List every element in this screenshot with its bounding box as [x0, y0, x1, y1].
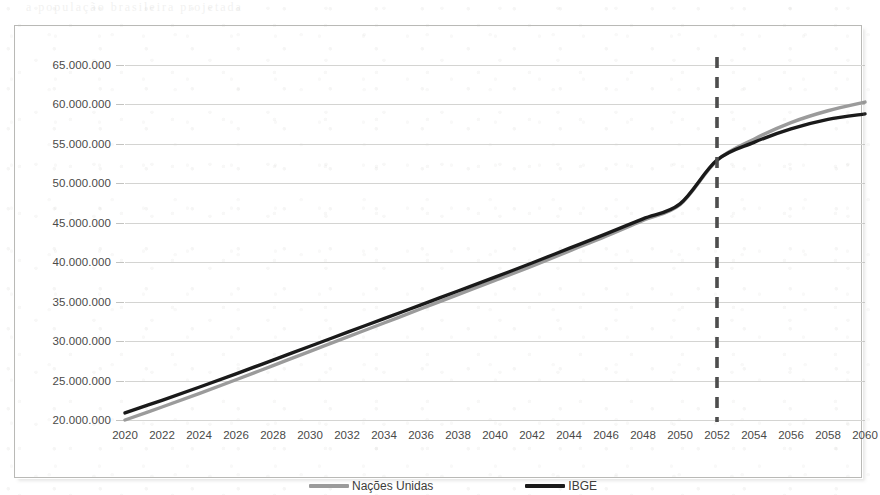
x-axis-label: 2032 — [334, 429, 360, 441]
legend-label: Nações Unidas — [352, 479, 433, 493]
legend-item[interactable]: IBGE — [525, 479, 597, 493]
x-axis-label: 2052 — [704, 429, 730, 441]
legend-swatch-icon — [525, 484, 565, 488]
y-axis-tick — [116, 144, 124, 145]
x-axis-label: 2020 — [112, 429, 138, 441]
x-axis-label: 2038 — [445, 429, 471, 441]
series-layer — [125, 65, 865, 420]
y-axis-tick — [116, 302, 124, 303]
y-axis-tick — [116, 183, 124, 184]
y-axis-label: 25.000.000 — [52, 375, 111, 387]
y-axis-label: 40.000.000 — [52, 256, 111, 268]
legend-label: IBGE — [568, 479, 597, 493]
y-axis-label: 45.000.000 — [52, 217, 111, 229]
y-axis-tick — [116, 420, 124, 421]
x-axis-label: 2026 — [223, 429, 249, 441]
plot-area: 65.000.00060.000.00055.000.00050.000.000… — [125, 65, 865, 420]
y-axis-label: 65.000.000 — [52, 59, 111, 71]
x-axis-label: 2054 — [741, 429, 767, 441]
x-axis-label: 2034 — [371, 429, 397, 441]
gridline — [125, 420, 865, 421]
x-axis-label: 2048 — [630, 429, 656, 441]
series-group — [125, 102, 865, 420]
x-axis-label: 2036 — [408, 429, 434, 441]
x-axis-label: 2022 — [149, 429, 175, 441]
x-axis-label: 2028 — [260, 429, 286, 441]
y-axis-tick — [116, 381, 124, 382]
y-axis-label: 30.000.000 — [52, 335, 111, 347]
chart-frame: 65.000.00060.000.00055.000.00050.000.000… — [14, 25, 862, 478]
x-axis-label: 2060 — [852, 429, 878, 441]
x-axis-label: 2058 — [815, 429, 841, 441]
x-axis-label: 2024 — [186, 429, 212, 441]
y-axis-label: 50.000.000 — [52, 177, 111, 189]
legend-item[interactable]: Nações Unidas — [309, 479, 433, 493]
x-axis-label: 2030 — [297, 429, 323, 441]
x-axis-label: 2050 — [667, 429, 693, 441]
y-axis-label: 20.000.000 — [52, 414, 111, 426]
x-axis-label: 2044 — [556, 429, 582, 441]
y-axis-tick — [116, 65, 124, 66]
legend-swatch-icon — [309, 484, 349, 488]
series-line — [125, 114, 865, 413]
page-bleedthrough-text: a população brasileira projetada — [0, 0, 880, 18]
y-axis-label: 35.000.000 — [52, 296, 111, 308]
y-axis-label: 60.000.000 — [52, 98, 111, 110]
x-axis-label: 2046 — [593, 429, 619, 441]
x-axis-label: 2042 — [519, 429, 545, 441]
chart-legend: Nações UnidasIBGE — [29, 473, 877, 495]
y-axis-label: 55.000.000 — [52, 138, 111, 150]
y-axis-tick — [116, 341, 124, 342]
y-axis-tick — [116, 223, 124, 224]
x-axis-label: 2040 — [482, 429, 508, 441]
x-axis-label: 2056 — [778, 429, 804, 441]
y-axis-tick — [116, 262, 124, 263]
y-axis-tick — [116, 104, 124, 105]
